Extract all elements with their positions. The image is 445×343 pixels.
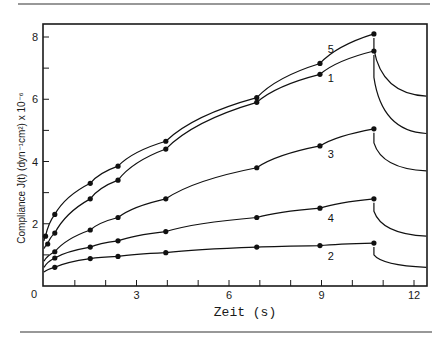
data-point xyxy=(254,95,259,100)
series-layer: 51342 xyxy=(43,31,426,272)
origin-label: 0 xyxy=(31,288,37,300)
data-point xyxy=(45,241,50,246)
data-point xyxy=(88,256,93,261)
x-tick-label: 3 xyxy=(133,289,139,301)
data-point xyxy=(254,215,259,220)
series-5: 5 xyxy=(43,31,426,241)
y-tick-label: 6 xyxy=(32,93,38,105)
series-4: 4 xyxy=(44,196,426,267)
series-1: 1 xyxy=(44,48,426,248)
recovery-curve-3 xyxy=(374,133,426,171)
data-point xyxy=(115,164,120,169)
x-tick-label: 12 xyxy=(408,289,420,301)
x-tick-label: 9 xyxy=(318,289,324,301)
recovery-curve-5 xyxy=(374,38,426,96)
data-point xyxy=(317,72,322,77)
data-point xyxy=(371,48,376,53)
y-axis-tick-labels: 2468 xyxy=(32,31,38,230)
data-point xyxy=(317,143,322,148)
data-point xyxy=(163,250,168,255)
series-line-5 xyxy=(44,34,374,241)
series-label: 5 xyxy=(328,43,334,55)
y-axis-label: Compliance J(t) (dyn⁻¹cm²) x 10⁻⁶ xyxy=(16,92,27,243)
y-tick-label: 4 xyxy=(32,156,38,168)
recovery-curve-4 xyxy=(374,203,426,236)
data-point xyxy=(115,178,120,183)
data-point xyxy=(163,146,168,151)
y-tick-label: 8 xyxy=(32,31,38,43)
data-point xyxy=(371,240,376,245)
data-point xyxy=(52,255,57,260)
data-point xyxy=(52,265,57,270)
data-point xyxy=(254,100,259,105)
x-tick-label: 6 xyxy=(226,289,232,301)
data-point xyxy=(317,243,322,248)
data-point xyxy=(115,254,120,259)
data-point xyxy=(115,215,120,220)
x-axis-tick-labels: 36912 xyxy=(133,289,420,301)
data-point xyxy=(371,31,376,36)
data-point xyxy=(52,249,57,254)
data-point xyxy=(88,181,93,186)
y-tick-label: 2 xyxy=(32,218,38,230)
data-point xyxy=(88,244,93,249)
series-label: 4 xyxy=(328,212,334,224)
series-label: 1 xyxy=(328,72,334,84)
x-axis-label: Zeit (s) xyxy=(214,305,276,320)
data-point xyxy=(88,196,93,201)
recovery-curve-2 xyxy=(374,247,426,267)
compliance-chart: 36912 2468 0 Zeit (s) Compliance J(t) (d… xyxy=(0,0,445,343)
series-line-4 xyxy=(44,199,374,267)
data-point xyxy=(52,230,57,235)
data-point xyxy=(317,206,322,211)
series-2: 2 xyxy=(44,240,426,272)
data-point xyxy=(52,212,57,217)
data-point xyxy=(43,234,48,239)
data-point xyxy=(163,196,168,201)
series-line-1 xyxy=(44,51,374,249)
x-axis-ticks xyxy=(75,280,414,286)
series-3: 3 xyxy=(44,126,426,261)
data-point xyxy=(254,165,259,170)
data-point xyxy=(254,244,259,249)
series-label: 2 xyxy=(328,250,334,262)
data-point xyxy=(115,238,120,243)
data-point xyxy=(88,227,93,232)
data-point xyxy=(163,229,168,234)
data-point xyxy=(371,126,376,131)
data-point xyxy=(371,196,376,201)
series-label: 3 xyxy=(328,148,334,160)
plot-frame xyxy=(43,24,427,286)
data-point xyxy=(317,61,322,66)
y-axis-ticks xyxy=(43,37,49,255)
data-point xyxy=(163,139,168,144)
recovery-curve-1 xyxy=(374,55,426,133)
series-line-2 xyxy=(44,243,374,272)
